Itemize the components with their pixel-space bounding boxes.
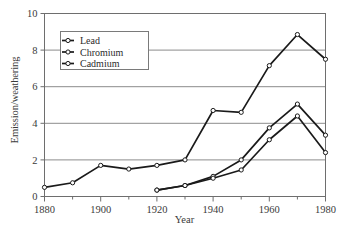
- data-point: [295, 32, 299, 36]
- data-point: [183, 158, 187, 162]
- data-point: [295, 114, 299, 118]
- data-point: [183, 183, 187, 187]
- data-point: [155, 163, 159, 167]
- data-point: [42, 185, 46, 189]
- data-point: [267, 138, 271, 142]
- chart-legend: LeadChromiumCadmium: [61, 32, 149, 70]
- series-line: [157, 104, 326, 190]
- data-point: [295, 102, 299, 106]
- y-tick-label: 6: [32, 81, 37, 92]
- x-tick-label: 1900: [90, 204, 111, 215]
- y-tick-label: 8: [32, 45, 37, 56]
- x-tick-label: 1920: [146, 204, 167, 215]
- data-point: [323, 57, 327, 61]
- y-tick-label: 10: [27, 8, 38, 19]
- data-point: [323, 133, 327, 137]
- data-point: [71, 181, 75, 185]
- series-chromium: [155, 102, 328, 192]
- data-point: [267, 64, 271, 68]
- y-tick-label: 2: [32, 155, 37, 166]
- legend-marker-icon: [66, 38, 70, 42]
- y-axis-ticks: [41, 14, 45, 197]
- x-tick-label: 1940: [203, 204, 224, 215]
- y-axis-tick-labels: 0246810: [27, 8, 38, 202]
- data-point: [239, 168, 243, 172]
- x-tick-label: 1960: [259, 204, 280, 215]
- y-tick-label: 4: [32, 118, 38, 129]
- data-point: [127, 167, 131, 171]
- series-line: [157, 116, 326, 190]
- data-point: [323, 150, 327, 154]
- emission-weathering-line-chart: Emission/weathering Year 0246810 1880190…: [0, 0, 348, 232]
- legend-item-label: Lead: [80, 35, 100, 46]
- legend-marker-icon: [66, 61, 70, 65]
- x-tick-label: 1880: [34, 204, 55, 215]
- legend-marker-icon: [66, 50, 70, 54]
- x-axis-ticks: [45, 197, 326, 202]
- series-cadmium: [155, 114, 328, 192]
- data-point: [211, 176, 215, 180]
- plot-area: 0246810 188019001920194019601980 LeadChr…: [0, 0, 348, 232]
- x-tick-label: 1980: [315, 204, 336, 215]
- legend-item-label: Chromium: [80, 47, 124, 58]
- data-point: [239, 158, 243, 162]
- data-point: [99, 163, 103, 167]
- data-point: [155, 188, 159, 192]
- data-point: [239, 110, 243, 114]
- x-axis-tick-labels: 188019001920194019601980: [34, 204, 336, 215]
- legend-item-label: Cadmium: [80, 58, 120, 69]
- data-point: [267, 126, 271, 130]
- data-point: [211, 108, 215, 112]
- y-tick-label: 0: [32, 191, 37, 202]
